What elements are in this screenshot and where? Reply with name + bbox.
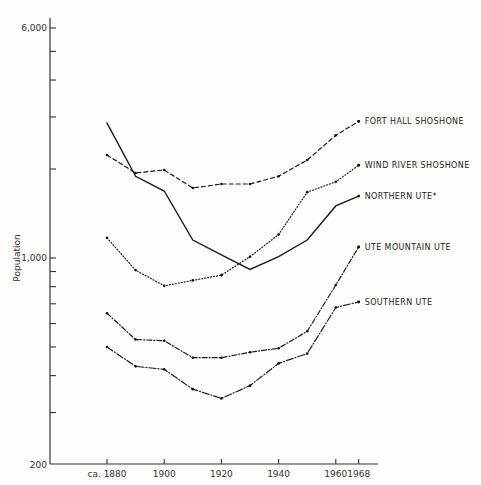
y-axis: 6,0001,000200 <box>21 18 56 470</box>
series-lines <box>106 120 360 400</box>
y-tick-label: 1,000 <box>21 253 47 263</box>
x-axis: ca. 188019001920194019601968 <box>50 459 378 479</box>
x-tick-label: ca. 1880 <box>87 469 126 479</box>
legend-label: SOUTHERN UTE <box>365 298 433 307</box>
series-fort-hall-shoshone <box>106 120 360 189</box>
y-axis-title: Population <box>12 234 22 281</box>
legend-labels: FORT HALL SHOSHONEWIND RIVER SHOSHONENOR… <box>365 117 470 307</box>
x-tick-label: 1940 <box>267 469 290 479</box>
series-southern-ute <box>106 301 360 400</box>
population-chart: 6,0001,000200 ca. 1880190019201940196019… <box>0 0 481 485</box>
y-tick-label: 6,000 <box>21 23 47 33</box>
legend-label: FORT HALL SHOSHONE <box>365 117 464 126</box>
x-tick-label: 1920 <box>210 469 233 479</box>
series-wind-river-shoshone <box>106 164 360 287</box>
legend-label: WIND RIVER SHOSHONE <box>365 161 470 170</box>
series-ute-mountain-ute <box>106 246 360 359</box>
y-tick-label: 200 <box>30 460 47 470</box>
series-northern-ute <box>107 123 360 269</box>
x-tick-label: 1960 <box>324 469 347 479</box>
legend-label: NORTHERN UTE* <box>365 192 437 201</box>
x-tick-label: 1900 <box>153 469 176 479</box>
x-tick-label: 1968 <box>347 469 370 479</box>
legend-label: UTE MOUNTAIN UTE <box>365 243 451 252</box>
